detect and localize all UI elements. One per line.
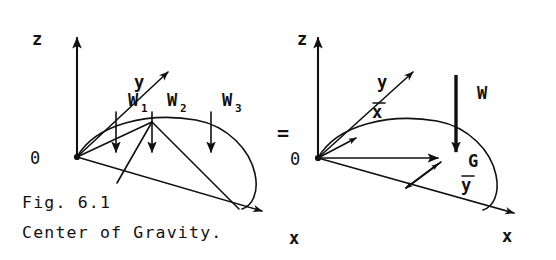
right-centroid-label: G	[468, 151, 478, 171]
left-force-subscript-2: 2	[180, 102, 187, 115]
left-force-label-2: W	[167, 90, 178, 110]
right-origin-label: 0	[290, 149, 300, 169]
left-origin-label: 0	[30, 148, 40, 168]
right-x-axis-label: x	[502, 226, 512, 246]
left-force-subscript-3: 3	[235, 102, 242, 115]
left-y-axis-label: y	[134, 72, 144, 92]
right-resultant-weight-label: W	[477, 83, 488, 103]
left-force-subscript-1: 1	[141, 102, 148, 115]
figure-caption-line-1: Fig. 6.1	[22, 193, 111, 212]
left-diagram-group: z y x 0 W 1 W 2 W 3	[30, 29, 299, 248]
right-ybar-arrow-in	[406, 164, 438, 188]
left-division-line-3	[152, 122, 239, 209]
left-x-axis-label: x	[289, 228, 299, 248]
right-x-axis	[318, 158, 514, 213]
left-z-axis-label: z	[32, 29, 42, 49]
right-ybar-label-group: y	[461, 175, 474, 195]
left-force-label-3: W	[222, 90, 233, 110]
right-y-axis-label: y	[377, 72, 387, 92]
left-y-axis	[77, 72, 168, 157]
right-y-axis	[318, 72, 413, 158]
right-diagram-group: z y x 0 x y G W	[290, 29, 514, 246]
right-xbar-label: x	[372, 102, 382, 122]
figure-drawing: z y x 0 W 1 W 2 W 3 =	[0, 0, 556, 260]
equals-sign: =	[277, 121, 289, 145]
figure-caption-line-2: Center of Gravity.	[22, 223, 222, 242]
left-force-label-1: W	[128, 90, 139, 110]
right-z-axis-label: z	[297, 29, 307, 49]
right-ybar-label: y	[461, 175, 471, 195]
figure-container: z y x 0 W 1 W 2 W 3 =	[0, 0, 556, 260]
right-xbar-label-group: x	[372, 102, 385, 122]
